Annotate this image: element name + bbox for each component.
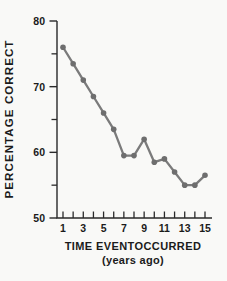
data-point [111, 127, 117, 133]
x-axis-subtitle: (years ago) [102, 254, 164, 266]
y-tick-label: 70 [33, 81, 45, 93]
y-axis-title: PERCENTAGE CORRECT [3, 40, 15, 199]
x-tick-label: 1 [60, 222, 66, 234]
data-point [172, 169, 178, 175]
data-point [70, 61, 76, 67]
x-tick-label: 3 [80, 222, 86, 234]
data-point [101, 110, 107, 116]
chart-svg: 5060708013579111315 PERCENTAGE CORRECT T… [0, 0, 227, 281]
data-point [192, 182, 198, 188]
data-point [202, 173, 208, 179]
y-tick-label: 80 [33, 15, 45, 27]
data-point [121, 153, 127, 159]
data-point [162, 156, 168, 162]
data-point [141, 136, 147, 142]
x-tick-label: 7 [121, 222, 127, 234]
x-tick-label: 15 [199, 222, 211, 234]
x-axis-title: TIME EVENTOCCURRED [65, 240, 202, 252]
y-tick-label: 60 [33, 146, 45, 158]
data-point [91, 94, 97, 100]
data-point [131, 153, 137, 159]
data-point [182, 182, 188, 188]
x-tick-label: 9 [141, 222, 147, 234]
x-tick-label: 5 [101, 222, 107, 234]
y-tick-label: 50 [33, 212, 45, 224]
data-point [60, 44, 66, 50]
chart-figure: 5060708013579111315 PERCENTAGE CORRECT T… [0, 0, 227, 281]
data-point [80, 77, 86, 83]
axis-spine [57, 21, 212, 218]
x-tick-label: 13 [179, 222, 191, 234]
plot-area: 5060708013579111315 [33, 15, 212, 234]
data-line [63, 47, 205, 185]
x-tick-label: 11 [159, 222, 170, 234]
data-point [151, 159, 157, 165]
